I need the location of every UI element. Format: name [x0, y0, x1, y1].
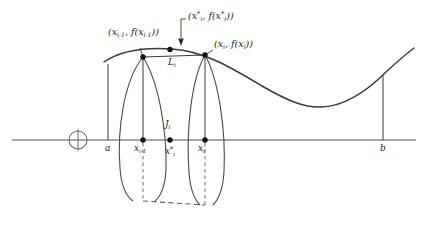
- label-point-left: (xi-1, f(xi-1)): [108, 27, 159, 37]
- label-point-left-p3: )): [151, 26, 158, 37]
- label-point-star-p2: , f(x: [202, 10, 221, 21]
- shell-base-dashed: [143, 201, 205, 205]
- label-interval: Ji: [165, 120, 170, 129]
- axis-point-left: [140, 137, 145, 142]
- label-tick-right-sub: i: [203, 148, 205, 154]
- label-point-right-p3: )): [246, 38, 253, 49]
- axis-point-right: [202, 137, 207, 142]
- label-point-right-sub2: i: [244, 43, 246, 50]
- shell-left-inner-edge: [143, 57, 166, 201]
- label-tick-star-sub: i: [173, 151, 175, 157]
- label-tick-right: xi: [198, 144, 205, 153]
- label-axis-a: a: [105, 144, 110, 153]
- shell-right-outer-edge: [188, 55, 205, 205]
- chord-segment: [143, 55, 205, 57]
- label-point-right-sub1: i: [223, 43, 225, 50]
- label-tick-left-sub: i-1: [139, 148, 146, 154]
- curve-point-star: [167, 47, 172, 52]
- label-arc-length-sub: i: [174, 62, 176, 68]
- leader-elbow-star: [181, 19, 186, 22]
- label-point-left-sub1: i-1: [117, 31, 125, 38]
- axis-point-star: [167, 137, 172, 142]
- label-point-star-p3: )): [226, 10, 233, 21]
- label-point-right: (xi, f(xi)): [214, 39, 253, 49]
- leader-arrowhead: [178, 39, 184, 47]
- diagram-svg: [0, 0, 429, 225]
- label-point-left-p2: , f(x: [125, 26, 144, 37]
- label-arc-length: Li: [168, 58, 176, 67]
- label-point-left-p1: (x: [108, 26, 117, 37]
- label-interval-sub: i: [169, 124, 171, 130]
- label-tick-left: xi-1: [134, 144, 147, 153]
- curve-point-right: [202, 52, 207, 57]
- label-point-star-sub2: i: [224, 15, 226, 22]
- label-point-star: (x*i, f(x*i)): [188, 11, 234, 21]
- label-point-right-p2: , f(x: [225, 38, 244, 49]
- shell-right-inner-edge: [205, 55, 224, 205]
- label-axis-b: b: [380, 144, 386, 153]
- label-point-star-p1: (x: [188, 10, 197, 21]
- label-point-right-p1: (x: [214, 38, 223, 49]
- label-point-left-sub2: i-1: [144, 31, 152, 38]
- curve-point-left: [140, 54, 145, 59]
- shell-left-outer-edge: [119, 57, 143, 201]
- label-tick-star: x*i: [165, 147, 175, 156]
- figure-canvas: (xi-1, f(xi-1)) (x*i, f(x*i)) (xi, f(xi)…: [0, 0, 429, 225]
